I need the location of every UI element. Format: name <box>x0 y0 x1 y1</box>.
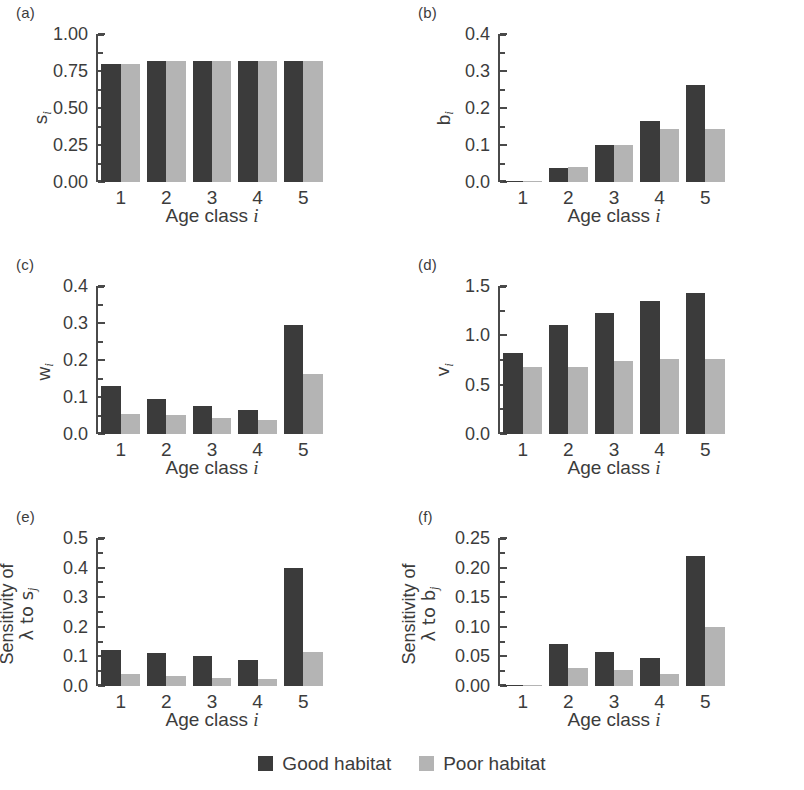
bar-good <box>147 61 166 182</box>
x-axis-title-b: Age class i <box>498 206 730 225</box>
bar-good <box>686 556 705 686</box>
y-tick-label: 0.5 <box>63 529 88 547</box>
bar-good <box>549 325 568 434</box>
y-tick-label: 0.0 <box>63 425 88 443</box>
x-tick-label: 5 <box>686 440 725 459</box>
bar-good <box>686 85 705 182</box>
legend-item-poor: Poor habitat <box>419 754 545 773</box>
bar-good <box>284 568 303 686</box>
y-axis-title-a: si <box>31 111 53 124</box>
y-axis-title-b: bi <box>434 111 456 125</box>
bar-poor <box>614 670 633 686</box>
x-axis-title-f: Age class i <box>498 710 730 729</box>
bar-good <box>595 313 614 434</box>
y-tick-label: 0.00 <box>53 173 88 191</box>
bar-group <box>503 538 542 686</box>
bar-group <box>147 34 186 182</box>
y-tick-label: 0.2 <box>63 618 88 636</box>
bar-poor <box>660 674 679 686</box>
x-tick-label: 5 <box>284 440 323 459</box>
bar-group <box>193 286 232 434</box>
x-axis-title-e: Age class i <box>96 710 328 729</box>
bar-poor <box>705 129 724 182</box>
bar-poor <box>212 61 231 182</box>
bar-poor <box>523 685 542 686</box>
plot-area-b: 0.00.10.20.30.412345 <box>498 34 728 182</box>
bar-poor <box>660 129 679 182</box>
panel-a: (a) si 0.000.250.500.751.0012345 Age cla… <box>0 0 402 250</box>
bar-good <box>640 301 659 434</box>
x-axis-title-d: Age class i <box>498 458 730 477</box>
panel-letter-f: (f) <box>418 508 433 525</box>
bar-group <box>595 538 634 686</box>
y-tick-label: 0.1 <box>465 136 490 154</box>
bar-poor <box>705 627 724 686</box>
bar-poor <box>568 668 587 686</box>
bar-group <box>503 286 542 434</box>
y-tick-label: 0.75 <box>53 62 88 80</box>
bar-group <box>284 286 323 434</box>
x-axis-title-a: Age class i <box>96 206 328 225</box>
panel-d: (d) vi 0.00.51.01.512345 Age class i <box>402 252 804 502</box>
y-tick-label: 1.5 <box>465 277 490 295</box>
bar-group <box>284 34 323 182</box>
bar-poor <box>258 420 277 434</box>
bar-poor <box>166 676 185 686</box>
bar-good <box>686 293 705 434</box>
bar-poor <box>166 61 185 182</box>
x-tick-label: 5 <box>686 692 725 711</box>
figure-legend: Good habitat Poor habitat <box>0 754 804 773</box>
panel-c: (c) wi 0.00.10.20.30.412345 Age class i <box>0 252 402 502</box>
bar-group <box>238 286 277 434</box>
bar-group <box>147 538 186 686</box>
bar-poor <box>705 359 724 434</box>
bar-poor <box>121 674 140 686</box>
x-tick-label: 5 <box>284 188 323 207</box>
bar-group <box>147 286 186 434</box>
bar-group-container <box>500 34 728 182</box>
plot-area-a: 0.000.250.500.751.0012345 <box>96 34 326 182</box>
x-tick-label: 1 <box>101 440 140 459</box>
y-axis-title-c: wi <box>34 363 56 380</box>
bar-group-container <box>500 286 728 434</box>
plot-area-d: 0.00.51.01.512345 <box>498 286 728 434</box>
bar-good <box>595 145 614 182</box>
bar-good <box>101 386 120 434</box>
bar-good <box>238 61 257 182</box>
bar-group-container <box>500 538 728 686</box>
panel-letter-a: (a) <box>16 4 35 21</box>
bar-good <box>549 644 568 686</box>
bar-good <box>503 353 522 434</box>
x-tick-label: 5 <box>284 692 323 711</box>
panel-letter-d: (d) <box>418 256 437 273</box>
panel-e: (e) Sensitivity of λ to sj 0.00.10.20.30… <box>0 504 402 754</box>
panel-letter-b: (b) <box>418 4 437 21</box>
y-tick-label: 0.20 <box>455 559 490 577</box>
bar-good <box>284 61 303 182</box>
bar-good <box>503 685 522 686</box>
bar-group <box>193 34 232 182</box>
y-tick-label: 0.1 <box>63 388 88 406</box>
panel-letter-c: (c) <box>16 256 34 273</box>
bar-poor <box>614 145 633 182</box>
plot-area-e: 0.00.10.20.30.40.512345 <box>96 538 326 686</box>
bar-poor <box>258 679 277 686</box>
bar-poor <box>166 415 185 434</box>
bar-group-container <box>98 34 326 182</box>
y-tick-label: 0.4 <box>465 25 490 43</box>
bar-poor <box>121 414 140 434</box>
y-tick-label: 0.0 <box>63 677 88 695</box>
bar-group-container <box>98 538 326 686</box>
bar-good <box>193 656 212 686</box>
bar-good <box>595 652 614 686</box>
legend-label-poor: Poor habitat <box>443 754 545 773</box>
bar-group <box>640 286 679 434</box>
panel-letter-e: (e) <box>16 508 35 525</box>
bar-group <box>238 538 277 686</box>
panel-f: (f) Sensitivity of λ to bj 0.000.050.100… <box>402 504 804 754</box>
bar-group <box>640 538 679 686</box>
y-tick-label: 0.50 <box>53 99 88 117</box>
bar-group <box>101 34 140 182</box>
bar-group <box>503 34 542 182</box>
bar-poor <box>303 652 322 686</box>
